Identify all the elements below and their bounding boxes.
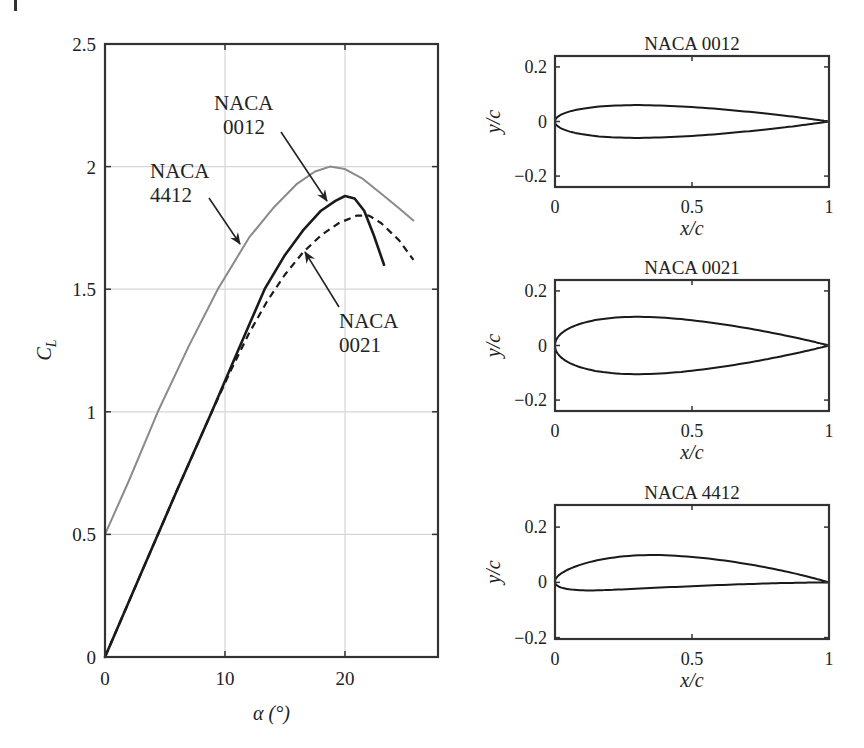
x-tick-label: 0.5 [681,649,704,669]
y-tick-label: −0.2 [514,390,547,410]
series-naca-0012 [105,196,384,657]
y-tick-label: −0.2 [514,628,547,648]
annotation-label: NACA0012 [214,91,274,139]
y-tick-label: 2.5 [72,34,96,55]
y-tick-label: 0 [538,572,547,592]
x-tick-label: 10 [216,668,235,689]
plot-frame [105,44,438,657]
lift-curve-plot: 0102000.511.522.5α (°)CLNACA0012NACA4412… [33,34,438,725]
subplot-frame [555,56,829,187]
airfoil-profile [555,317,829,374]
y-axis-label: y/c [482,560,505,585]
annotation-label: NACA0021 [339,309,399,357]
x-tick-label: 1 [825,421,834,441]
y-tick-label: 0 [538,112,547,132]
x-tick-label: 0.5 [681,197,704,217]
figure: 0102000.511.522.5α (°)CLNACA0012NACA4412… [0,0,864,748]
subplot-title: NACA 0021 [644,257,740,278]
y-axis-label: y/c [482,110,505,135]
y-axis-label: y/c [482,334,505,359]
y-tick-label: 1.5 [72,279,96,300]
y-tick-label: 0.2 [525,57,548,77]
x-tick-label: 1 [825,197,834,217]
x-tick-label: 0 [100,668,110,689]
subplot-title: NACA 4412 [644,482,740,503]
airfoil-plot-naca-0012: NACA 001200.51−0.200.2x/cy/c [482,33,834,239]
subplot-frame [555,280,829,411]
x-axis-label: x/c [679,669,703,691]
airfoil-plot-naca-0021: NACA 002100.51−0.200.2x/cy/c [482,257,834,463]
subplot-title: NACA 0012 [644,33,740,54]
annotation-label: NACA4412 [150,159,210,207]
y-tick-label: 0 [87,647,97,668]
x-axis-label: α (°) [253,702,290,725]
x-tick-label: 0 [551,649,560,669]
airfoil-plot-naca-4412: NACA 441200.51−0.200.2x/cy/c [482,482,834,691]
x-tick-label: 0 [551,197,560,217]
x-tick-label: 0 [551,421,560,441]
y-axis-label: CL [33,339,59,360]
x-tick-label: 20 [336,668,355,689]
y-tick-label: −0.2 [514,166,547,186]
y-tick-label: 0.2 [525,517,548,537]
y-tick-label: 2 [87,157,97,178]
airfoil-profile [555,105,829,138]
y-tick-label: 0 [538,336,547,356]
y-tick-label: 1 [87,402,97,423]
x-axis-label: x/c [679,441,703,463]
x-axis-label: x/c [679,217,703,239]
series-naca-0021 [105,216,413,657]
y-tick-label: 0.2 [525,281,548,301]
airfoil-profile [555,555,829,590]
annotation-arrow-icon [305,252,339,307]
y-tick-label: 0.5 [72,524,96,545]
x-tick-label: 0.5 [681,421,704,441]
x-tick-label: 1 [825,649,834,669]
